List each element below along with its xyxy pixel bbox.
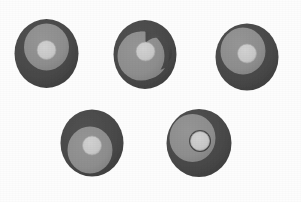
disc-object-5 (167, 109, 232, 177)
disc-object-2 (114, 20, 177, 89)
disc-object-4 (61, 110, 124, 177)
disc-object-1 (15, 19, 79, 88)
disc-object-3 (216, 24, 279, 91)
image-canvas (0, 0, 301, 202)
disc-scene-svg (0, 0, 301, 202)
